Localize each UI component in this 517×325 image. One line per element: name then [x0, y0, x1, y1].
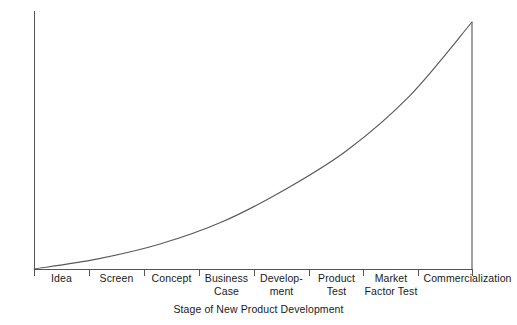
x-tick-label-line: Concept [144, 272, 199, 285]
x-tick-label-line: Business [199, 272, 254, 285]
cost-of-failure-curve [34, 22, 472, 269]
x-tick-label-business-case: Business Case [199, 272, 254, 297]
x-tick-label-commercialization: Commercialization [418, 272, 517, 285]
x-tick-label-product-test: Product Test [309, 272, 364, 297]
chart-figure: Cost of Failure Idea Screen Concept Busi… [0, 0, 517, 325]
x-tick-label-development: Develop- ment [254, 272, 309, 297]
x-tick-label-line: Test [309, 285, 364, 298]
x-tick-label-idea: Idea [34, 272, 89, 285]
x-tick-label-line: Commercialization [418, 272, 517, 285]
x-tick-label-line: Develop- [254, 272, 309, 285]
x-tick-label-line: ment [254, 285, 309, 298]
x-tick-label-line: Screen [89, 272, 144, 285]
x-tick-label-screen: Screen [89, 272, 144, 285]
x-tick-label-line: Case [199, 285, 254, 298]
x-axis-title: Stage of New Product Development [0, 303, 517, 315]
x-tick-label-line: Idea [34, 272, 89, 285]
x-tick-label-concept: Concept [144, 272, 199, 285]
x-tick-label-line: Market [361, 272, 421, 285]
x-tick-label-market-factor-test: Market Factor Test [361, 272, 421, 297]
x-tick-label-line: Product [309, 272, 364, 285]
x-tick-label-line: Factor Test [361, 285, 421, 298]
